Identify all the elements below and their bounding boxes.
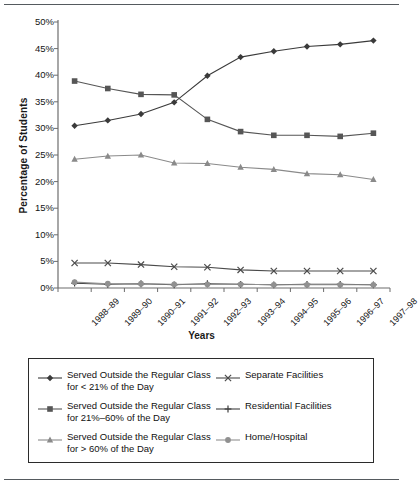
legend-marker-square-icon xyxy=(37,401,63,419)
top-divider xyxy=(4,4,399,5)
bottom-divider xyxy=(4,479,399,480)
chart-legend: Served Outside the Regular Class for < 2… xyxy=(28,358,374,463)
legend-marker-circle-icon xyxy=(215,432,241,450)
legend-marker-x-icon xyxy=(215,370,241,388)
legend-marker-diamond-icon xyxy=(37,370,63,388)
legend-label: Home/Hospital xyxy=(245,431,375,443)
legend-label: Residential Facilities xyxy=(245,400,375,412)
legend-marker-plus-icon xyxy=(215,401,241,419)
chart-plot-area: Percentage of Students 0%5%10%15%20%25%3… xyxy=(0,10,403,340)
series-0 xyxy=(71,37,376,129)
legend-label: Served Outside the Regular Class for > 6… xyxy=(67,431,217,454)
line-chart-svg xyxy=(0,10,403,325)
legend-label: Served Outside the Regular Class for 21%… xyxy=(67,400,217,423)
legend-label: Served Outside the Regular Class for < 2… xyxy=(67,369,217,392)
x-axis-title: Years xyxy=(0,330,403,341)
series-3 xyxy=(72,260,377,274)
series-1 xyxy=(72,78,376,139)
legend-label: Separate Facilities xyxy=(245,369,375,381)
series-2 xyxy=(71,152,376,182)
legend-marker-triangle-icon xyxy=(37,432,63,450)
